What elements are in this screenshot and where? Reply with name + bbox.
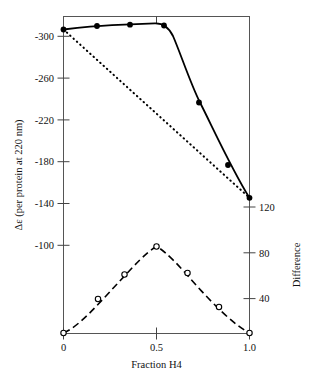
data-point [161,23,167,29]
y-left-tick-2: -220 [35,115,54,126]
data-point [185,270,190,275]
data-point [94,23,100,29]
data-point [61,330,66,335]
data-point [247,195,253,201]
y-right-tick-1: 80 [259,248,270,259]
y-left-tick-4: -140 [35,198,54,209]
data-point [122,272,127,277]
x-axis-title: Fraction H4 [131,359,182,370]
chart-background [0,0,323,375]
data-point [95,296,100,301]
x-tick-0: 0 [61,342,66,353]
data-point [225,162,231,168]
y-axis-left-title: Δε (per protein at 220 nm) [13,119,25,231]
data-point [154,244,159,249]
chart-figure: -300 -260 -220 -180 -140 -100 120 80 40 … [0,0,323,375]
data-point [247,330,252,335]
chart-svg: -300 -260 -220 -180 -140 -100 120 80 40 … [0,0,323,375]
data-point [61,27,67,33]
y-left-tick-3: -180 [35,156,54,167]
y-right-tick-2: 120 [259,202,275,213]
data-point [216,304,221,309]
y-left-tick-0: -300 [35,31,54,42]
y-axis-right-title: Difference [291,242,302,287]
data-point [196,100,202,106]
data-point [127,22,133,28]
y-right-tick-0: 40 [259,293,270,304]
y-left-tick-1: -260 [35,73,54,84]
y-left-tick-5: -100 [35,240,54,251]
x-tick-1: 0.5 [150,342,163,353]
x-tick-2: 1.0 [243,342,256,353]
